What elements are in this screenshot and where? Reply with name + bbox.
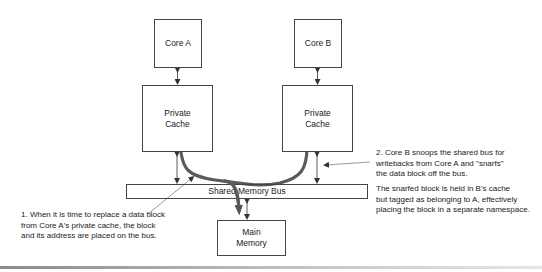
annotation-step2: 2. Core B snoops the shared bus for writ… bbox=[376, 148, 505, 180]
bottom-divider bbox=[0, 266, 542, 269]
annotation-step1: 1. When it is time to replace a data blo… bbox=[21, 210, 165, 242]
writeback-flow-over-bus bbox=[225, 181, 239, 210]
annotation-step3: The snarfed block is held in B's cache b… bbox=[376, 184, 530, 216]
